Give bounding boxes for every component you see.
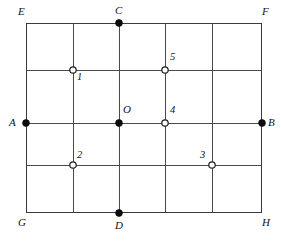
marker-3 bbox=[209, 162, 215, 168]
point-c-label: C bbox=[115, 5, 122, 16]
corner-label-g-text: G bbox=[18, 217, 26, 228]
marker-d bbox=[116, 210, 123, 217]
rectangle-border bbox=[26, 23, 262, 213]
corner-label-h-text: H bbox=[262, 217, 270, 228]
marker-1 bbox=[70, 67, 76, 73]
corner-label-e-text: E bbox=[18, 6, 25, 17]
marker-c bbox=[116, 20, 123, 27]
inner-horizontal-lines bbox=[26, 71, 262, 166]
marker-a bbox=[23, 120, 30, 127]
figure-root: EFGHABCDO12345 bbox=[0, 0, 281, 242]
grid-diagram-svg bbox=[0, 0, 281, 242]
inner-vertical-lines bbox=[74, 23, 213, 213]
marker-4 bbox=[162, 120, 168, 126]
point-5-label: 5 bbox=[170, 52, 175, 63]
marker-b bbox=[259, 120, 266, 127]
marker-5 bbox=[162, 67, 168, 73]
point-a-label: A bbox=[9, 117, 16, 128]
point-4-label: 4 bbox=[170, 105, 175, 116]
point-3-label: 3 bbox=[200, 150, 205, 161]
corner-label-f-text: F bbox=[262, 6, 269, 17]
point-b-label: B bbox=[268, 117, 275, 128]
marker-2 bbox=[70, 162, 76, 168]
point-d-label: D bbox=[115, 220, 123, 231]
point-markers bbox=[23, 20, 266, 217]
point-o-label: O bbox=[123, 104, 131, 115]
point-2-label: 2 bbox=[77, 150, 82, 161]
point-1-label: 1 bbox=[77, 72, 82, 83]
marker-o bbox=[116, 120, 123, 127]
